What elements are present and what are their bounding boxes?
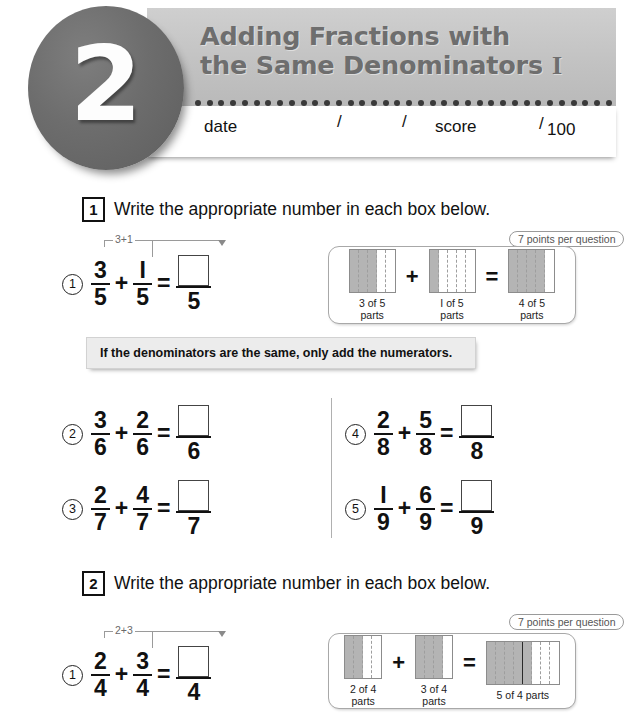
title-line-2: the Same Denominators [200, 50, 543, 80]
section-1-instruction: Write the appropriate number in each box… [114, 199, 490, 220]
problem-2-1-operand-b: 3 4 [133, 650, 152, 701]
problem-1-5: 5 I 9 + 6 9 = 9 [345, 480, 494, 538]
sum-annotation-1-label: 3+1 [113, 233, 135, 245]
problem-1-2: 2 3 6 + 2 6 = 6 [62, 405, 211, 463]
problem-1-1-number: 1 [62, 274, 83, 295]
page-title: Adding Fractions with the Same Denominat… [200, 22, 610, 80]
problem-1-4-equals: = [440, 420, 453, 449]
diagram-1-bar-a-graphic [349, 249, 396, 293]
problem-1-3: 3 2 7 + 4 7 = 7 [62, 480, 211, 538]
problem-1-1-answer-box[interactable] [178, 255, 209, 286]
problem-1-2-equals: = [157, 420, 170, 449]
sum-annotation-2-label: 2+3 [113, 624, 135, 636]
diagram-2-bar-a: 2 of 4 parts [344, 635, 382, 708]
problem-2-1-operand-a: 2 4 [91, 650, 110, 701]
section-2-number: 2 [82, 571, 105, 596]
diagram-2-bar-b-caption: 3 of 4 parts [421, 683, 447, 708]
section-1-heading: 1 Write the appropriate number in each b… [82, 197, 490, 222]
problem-2-1-answer: 4 [176, 646, 211, 704]
date-slash-2: / [402, 112, 407, 132]
problem-1-5-operand-a: I 9 [374, 484, 393, 535]
section-2-heading: 2 Write the appropriate number in each b… [82, 571, 490, 596]
problem-1-2-answer: 6 [176, 405, 211, 463]
problem-2-1: 1 2 4 + 3 4 = 4 [62, 646, 211, 704]
points-badge-1: 7 points per question [509, 231, 624, 247]
diagram-2-bar-result-graphic [486, 641, 560, 685]
problem-1-4-operator: + [398, 420, 411, 449]
problem-1-3-answer-box[interactable] [178, 480, 209, 511]
diagram-1-bar-result-graphic [508, 249, 555, 293]
fraction-diagram-2: 2 of 4 parts + 3 of 4 parts = 5 of 4 par… [328, 633, 576, 709]
diagram-2-bar-result: 5 of 4 parts [486, 641, 560, 702]
problem-1-3-number: 3 [62, 499, 83, 520]
diagram-2-bar-a-caption: 2 of 4 parts [350, 683, 376, 708]
title-roman-numeral: I [543, 51, 562, 80]
diagram-1-bar-b-caption: I of 5 parts [440, 297, 463, 322]
problem-1-2-operator: + [115, 420, 128, 449]
column-divider [331, 398, 332, 538]
problem-1-1-operand-a: 3 5 [91, 259, 110, 310]
problem-1-2-operand-b: 2 6 [133, 409, 152, 460]
diagram-2-bar-result-caption: 5 of 4 parts [497, 689, 550, 702]
problem-1-1-equals: = [157, 270, 170, 299]
problem-1-1-answer: 5 [176, 255, 211, 313]
problem-1-3-equals: = [157, 495, 170, 524]
score-slash: / [539, 114, 544, 134]
diagram-2-bar-b: 3 of 4 parts [415, 635, 453, 708]
section-2-instruction: Write the appropriate number in each box… [114, 573, 490, 594]
hint-box: If the denominators are the same, only a… [86, 337, 476, 369]
problem-1-3-operand-a: 2 7 [91, 484, 110, 535]
diagram-2-bar-a-graphic [344, 635, 382, 679]
problem-1-3-operand-b: 4 7 [133, 484, 152, 535]
problem-1-5-equals: = [440, 495, 453, 524]
diagram-2-operator: + [392, 650, 405, 676]
diagram-1-bar-b: I of 5 parts [429, 249, 476, 322]
problem-1-5-operand-b: 6 9 [416, 484, 435, 535]
problem-1-4-operand-b: 5 8 [416, 409, 435, 460]
diagram-1-bar-result-caption: 4 of 5 parts [519, 297, 545, 322]
diagram-1-operator: + [406, 264, 419, 290]
fraction-diagram-1: 3 of 5 parts + I of 5 parts = 4 of 5 par… [328, 246, 576, 324]
problem-1-2-operand-a: 3 6 [91, 409, 110, 460]
hint-text: If the denominators are the same, only a… [100, 346, 452, 360]
points-badge-2: 7 points per question [509, 614, 624, 630]
problem-2-1-answer-box[interactable] [178, 646, 209, 677]
problem-1-4-number: 4 [345, 424, 366, 445]
fraction-diagram-1-row: 3 of 5 parts + I of 5 parts = 4 of 5 par… [329, 247, 575, 323]
problem-1-4-answer-box[interactable] [461, 405, 492, 436]
diagram-1-bar-result: 4 of 5 parts [508, 249, 555, 322]
score-total: 100 [547, 120, 575, 140]
problem-1-1-operand-b: I 5 [133, 259, 152, 310]
problem-1-5-answer-box[interactable] [461, 480, 492, 511]
title-line-1: Adding Fractions with [200, 21, 510, 51]
problem-1-4-operand-a: 2 8 [374, 409, 393, 460]
problem-1-1-operator: + [115, 270, 128, 299]
problem-1-1: 1 3 5 + I 5 = 5 [62, 255, 211, 313]
diagram-1-bar-b-graphic [429, 249, 476, 293]
date-slash-1: / [337, 112, 342, 132]
problem-2-1-equals: = [157, 661, 170, 690]
diagram-2-equals: = [463, 650, 476, 676]
problem-1-3-operator: + [115, 495, 128, 524]
date-score-row: date / / score / 100 [147, 106, 616, 157]
diagram-2-bar-b-graphic [415, 635, 453, 679]
problem-2-1-operator: + [115, 661, 128, 690]
problem-1-4-answer: 8 [459, 405, 494, 463]
problem-1-5-number: 5 [345, 499, 366, 520]
problem-1-5-answer: 9 [459, 480, 494, 538]
problem-1-2-answer-box[interactable] [178, 405, 209, 436]
diagram-1-bar-a: 3 of 5 parts [349, 249, 396, 322]
section-1-number: 1 [82, 197, 105, 222]
problem-1-2-number: 2 [62, 424, 83, 445]
problem-1-3-answer: 7 [176, 480, 211, 538]
problem-1-4: 4 2 8 + 5 8 = 8 [345, 405, 494, 463]
problem-1-5-operator: + [398, 495, 411, 524]
date-label: date [204, 117, 237, 137]
score-label: score [435, 117, 477, 137]
diagram-1-equals: = [486, 264, 499, 290]
fraction-diagram-2-row: 2 of 4 parts + 3 of 4 parts = 5 of 4 par… [329, 634, 575, 708]
diagram-1-bar-a-caption: 3 of 5 parts [359, 297, 385, 322]
problem-2-1-number: 1 [62, 665, 83, 686]
worksheet-header: Adding Fractions with the Same Denominat… [0, 0, 633, 172]
